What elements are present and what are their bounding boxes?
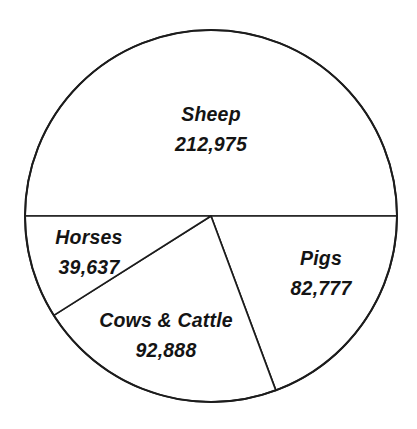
- slice-label-cows-and-cattle: Cows & Cattle: [99, 309, 233, 331]
- pie-chart-svg: Sheep 212,975 Pigs 82,777 Cows & Cattle …: [0, 0, 417, 429]
- pie-slices: [25, 30, 397, 402]
- slice-label-sheep: Sheep: [181, 103, 241, 125]
- slice-label-pigs: Pigs: [300, 247, 342, 269]
- slice-value-cows-and-cattle: 92,888: [136, 339, 197, 361]
- slice-value-horses: 39,637: [59, 256, 121, 278]
- slice-value-sheep: 212,975: [174, 133, 248, 155]
- slice-label-horses: Horses: [55, 226, 122, 248]
- pie-chart: Sheep 212,975 Pigs 82,777 Cows & Cattle …: [0, 0, 417, 429]
- slice-value-pigs: 82,777: [291, 277, 353, 299]
